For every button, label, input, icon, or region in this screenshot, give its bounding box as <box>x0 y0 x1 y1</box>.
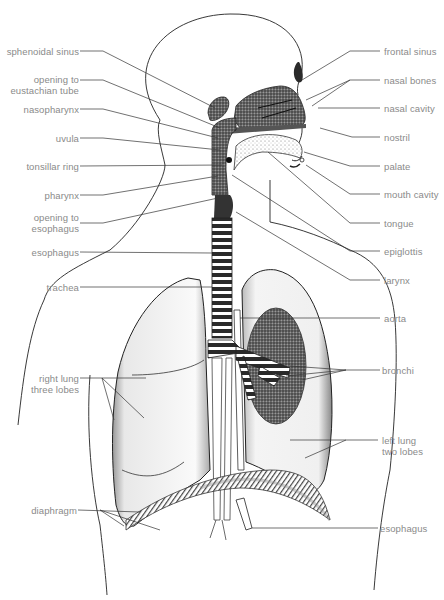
label-opening-esophagus: opening to esophagus <box>3 212 79 234</box>
label-epiglottis: epiglottis <box>384 246 423 257</box>
aorta-shape <box>234 310 244 470</box>
frontal-sinus-shape <box>294 62 303 82</box>
label-bronchi: bronchi <box>382 365 414 376</box>
label-diaphragm: diaphragm <box>3 505 77 516</box>
label-aorta: aorta <box>384 313 406 324</box>
pharynx-shape <box>212 118 236 195</box>
label-tongue: tongue <box>384 218 414 229</box>
label-mouth-cavity: mouth cavity <box>384 189 439 200</box>
label-nasopharynx: nasopharynx <box>3 104 79 115</box>
label-left-lung: left lung two lobes <box>382 435 423 457</box>
nasal-cavity-shape <box>234 86 305 128</box>
label-frontal-sinus: frontal sinus <box>384 46 437 57</box>
label-sphenoidal-sinus: sphenoidal sinus <box>3 46 79 57</box>
label-nasal-cavity: nasal cavity <box>384 103 435 114</box>
label-larynx: larynx <box>384 275 410 286</box>
label-tonsillar-ring: tonsillar ring <box>3 161 79 172</box>
label-esophagus-lower: esophagus <box>380 523 427 534</box>
label-trachea: trachea <box>3 282 79 293</box>
label-esophagus-upper: esophagus <box>3 247 79 258</box>
label-nasal-bones: nasal bones <box>384 75 436 86</box>
trachea-shape <box>212 218 232 338</box>
label-palate: palate <box>384 161 410 172</box>
label-nostril: nostril <box>384 132 410 143</box>
label-uvula: uvula <box>3 133 79 144</box>
label-opening-eustachian-tube: opening to eustachian tube <box>3 74 79 96</box>
label-pharynx: pharynx <box>3 190 79 201</box>
lower-esophagus-shape <box>236 498 252 530</box>
sphenoidal-sinus-shape <box>208 97 229 121</box>
label-right-lung: right lung three lobes <box>3 373 79 395</box>
